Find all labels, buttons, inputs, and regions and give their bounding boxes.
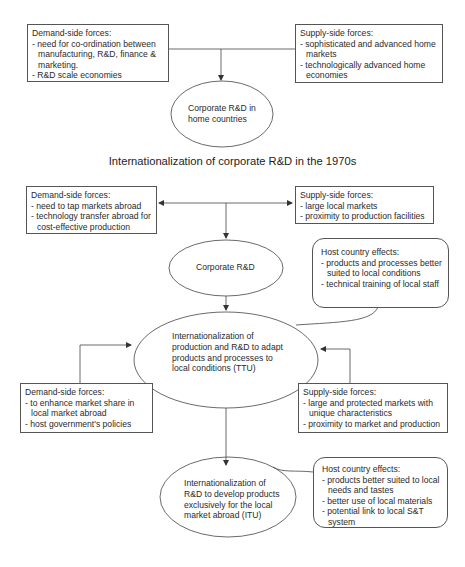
box-heading: Host country effects:: [321, 247, 442, 258]
list-item: technology transfer abroad for cost-effe…: [31, 211, 152, 232]
list-item: large and protected markets with unique …: [303, 398, 443, 419]
list-item: products better suited to local needs an…: [322, 475, 441, 496]
section-title: Internationalization of corporate R&D in…: [0, 155, 465, 167]
box-heading: Supply-side forces:: [303, 387, 443, 398]
ellipse-ttu-label: Internationalization of production and R…: [172, 331, 290, 374]
demand-lower-arrow: [80, 345, 131, 383]
middle-demand-box: Demand-side forces: need to tap markets …: [26, 186, 157, 234]
list-item: technical training of local staff: [321, 279, 442, 290]
list-item: host government's policies: [25, 419, 148, 430]
host-effects-1-connector: [296, 307, 378, 325]
list-item: sophisticated and advanced home markets: [300, 39, 438, 60]
lower-supply-box: Supply-side forces: large and protected …: [298, 383, 448, 433]
top-demand-box: Demand-side forces: need for co-ordinati…: [27, 24, 169, 82]
ellipse-corporate-rd-label: Corporate R&D: [196, 262, 266, 273]
list-item: need for co-ordination between manufactu…: [32, 39, 164, 71]
list-item: R&D scale economies: [32, 70, 164, 81]
list-item: products and processes better suited to …: [321, 258, 442, 279]
lower-demand-box: Demand-side forces: to enhance market sh…: [20, 383, 153, 433]
middle-host-effects-box: Host country effects: products and proce…: [312, 238, 449, 308]
list-item: to enhance market share in local market …: [25, 398, 148, 419]
list-item: need to tap markets abroad: [31, 201, 152, 212]
top-supply-box: Supply-side forces: sophisticated and ad…: [295, 24, 443, 83]
box-heading: Demand-side forces:: [32, 28, 164, 39]
list-item: proximity to production facilities: [300, 211, 429, 222]
ellipse-home-rd-label: Corporate R&D in home countries: [188, 103, 260, 125]
box-heading: Supply-side forces:: [300, 28, 438, 39]
box-heading: Supply-side forces:: [300, 190, 429, 201]
box-heading: Demand-side forces:: [25, 387, 148, 398]
host-effects-2-connector: [273, 467, 313, 472]
list-item: proximity to market and production: [303, 419, 443, 430]
supply-lower-arrow: [321, 349, 350, 383]
lower-host-effects-box: Host country effects: products better su…: [313, 457, 448, 528]
ellipse-itu-label: Internationalization of R&D to develop p…: [184, 478, 280, 521]
list-item: technologically advanced home economies: [300, 60, 438, 81]
middle-supply-box: Supply-side forces: large local markets …: [295, 186, 434, 224]
list-item: large local markets: [300, 201, 429, 212]
box-heading: Demand-side forces:: [31, 190, 152, 201]
box-heading: Host country effects:: [322, 464, 441, 475]
list-item: potential link to local S&T system: [322, 506, 441, 527]
list-item: better use of local materials: [322, 496, 441, 507]
